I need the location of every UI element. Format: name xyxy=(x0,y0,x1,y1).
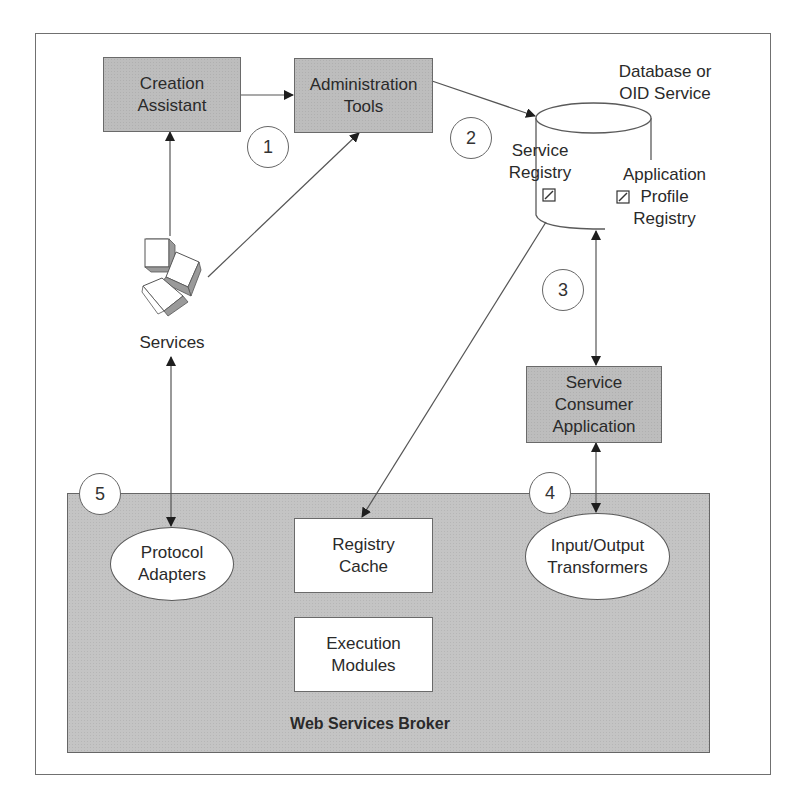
web-services-broker-label: Web Services Broker xyxy=(270,713,470,735)
service-registry-label[interactable]: Service Registry xyxy=(500,140,580,184)
service-consumer-application-label: Service Consumer Application xyxy=(552,372,635,438)
step-5-marker: 5 xyxy=(79,473,121,515)
registry-cache-box[interactable]: Registry Cache xyxy=(294,518,433,593)
creation-assistant-label: Creation Assistant xyxy=(138,73,207,117)
protocol-adapters-label: Protocol Adapters xyxy=(138,542,206,586)
step-4-marker: 4 xyxy=(529,472,571,514)
administration-tools-box[interactable]: Administration Tools xyxy=(294,58,433,133)
step-2-marker: 2 xyxy=(450,117,492,159)
database-label: Database or OID Service xyxy=(610,61,720,105)
application-profile-registry-label[interactable]: Application Profile Registry xyxy=(612,164,717,230)
step-3-marker: 3 xyxy=(542,269,584,311)
step-1-marker: 1 xyxy=(247,126,289,168)
administration-tools-label: Administration Tools xyxy=(310,74,418,118)
registry-cache-label: Registry Cache xyxy=(332,534,394,578)
creation-assistant-box[interactable]: Creation Assistant xyxy=(103,57,241,132)
input-output-transformers-ellipse[interactable]: Input/Output Transformers xyxy=(525,513,670,600)
input-output-transformers-label: Input/Output Transformers xyxy=(547,535,647,579)
service-consumer-application-box[interactable]: Service Consumer Application xyxy=(526,366,662,443)
execution-modules-label: Execution Modules xyxy=(326,633,401,677)
protocol-adapters-ellipse[interactable]: Protocol Adapters xyxy=(110,527,234,601)
services-label[interactable]: Services xyxy=(124,332,220,354)
execution-modules-box[interactable]: Execution Modules xyxy=(294,617,433,692)
